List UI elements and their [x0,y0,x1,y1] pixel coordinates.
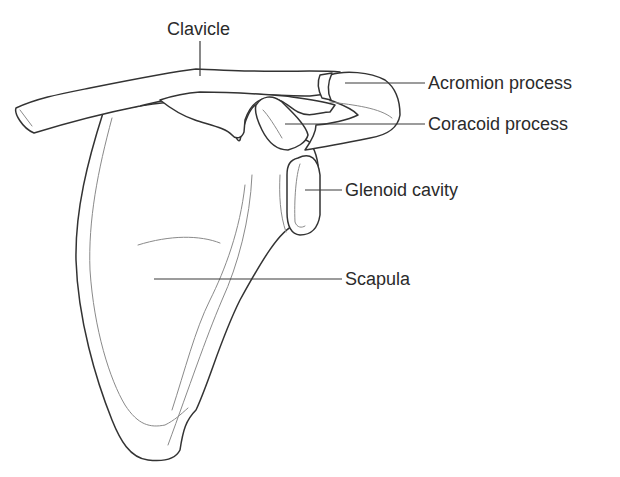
shoulder-diagram [0,0,620,477]
label-coracoid-process: Coracoid process [428,115,568,133]
label-clavicle: Clavicle [167,20,230,38]
label-acromion-process: Acromion process [428,74,572,92]
label-scapula: Scapula [345,270,410,288]
scapula-shape [76,103,318,461]
label-glenoid-cavity: Glenoid cavity [345,181,458,199]
